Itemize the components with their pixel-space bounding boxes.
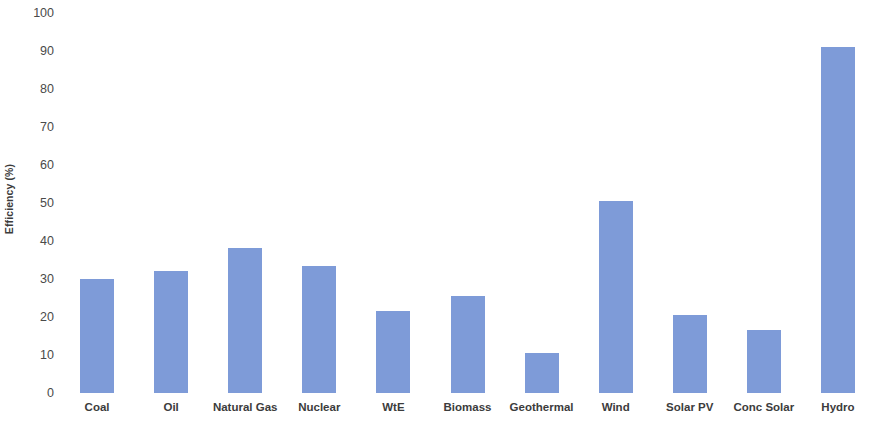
bar-slot [228,0,262,393]
x-axis-tick-label: Wind [579,399,653,415]
bar-slot [599,0,633,393]
x-axis-tick-label: Hydro [801,399,875,415]
y-axis-tick-50: 50 [40,197,54,210]
bar [673,315,707,393]
plot-area [60,0,875,393]
bar-slot [673,0,707,393]
y-axis-tick-labels: 1009080706050403020100 [18,0,60,423]
x-axis-tick-label: Biomass [430,399,504,415]
y-axis-tick-80: 80 [40,82,54,95]
bar-slot [451,0,485,393]
bar [451,296,485,393]
y-axis-tick-60: 60 [40,158,54,171]
bar [80,279,114,393]
x-axis-tick-label: Solar PV [653,399,727,415]
bar-chart: Efficiency (%) 1009080706050403020100 Co… [0,0,875,423]
bar-slot [747,0,781,393]
bar-slot [80,0,114,393]
bar [599,201,633,393]
y-axis-tick-90: 90 [40,44,54,57]
bar-slot [302,0,336,393]
y-axis-title-label: Efficiency (%) [3,164,15,234]
bar-slot [376,0,410,393]
y-axis-tick-10: 10 [40,349,54,362]
bar-slot [154,0,188,393]
y-axis-tick-40: 40 [40,235,54,248]
x-axis-tick-label: Nuclear [282,399,356,415]
x-axis-tick-label: Natural Gas [208,399,282,415]
x-axis-tick-label: Coal [60,399,134,415]
bar [821,47,855,393]
x-axis-tick-label: WtE [356,399,430,415]
x-axis-tick-labels: CoalOilNatural GasNuclearWtEBiomassGeoth… [60,399,875,423]
bar [525,353,559,393]
bar [747,330,781,393]
x-axis-tick-label: Geothermal [505,399,579,415]
y-axis-tick-70: 70 [40,120,54,133]
x-axis-tick-label: Oil [134,399,208,415]
y-axis-tick-30: 30 [40,273,54,286]
y-axis-title: Efficiency (%) [0,0,18,398]
y-axis-tick-100: 100 [33,6,54,19]
y-axis-tick-0: 0 [47,387,54,400]
bar-slot [525,0,559,393]
x-axis-tick-label: Conc Solar [727,399,801,415]
bar [376,311,410,393]
bar [154,271,188,393]
bar [228,248,262,393]
bar [302,266,336,393]
bar-slot [821,0,855,393]
y-axis-tick-20: 20 [40,311,54,324]
